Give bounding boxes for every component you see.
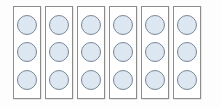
circle-1-1[interactable] bbox=[17, 15, 37, 35]
circle-2-1[interactable] bbox=[49, 15, 69, 35]
column-box-3[interactable]: Column 3 bbox=[77, 6, 105, 99]
circle-3-2[interactable] bbox=[81, 42, 101, 62]
circle-6-3[interactable] bbox=[177, 70, 197, 90]
circle-4-2[interactable] bbox=[113, 42, 133, 62]
diagram-canvas: Column 1 Column 2 Column 3 Column 4 Colu… bbox=[0, 0, 221, 107]
column-box-1[interactable]: Column 1 bbox=[13, 6, 41, 99]
circle-4-3[interactable] bbox=[113, 70, 133, 90]
circle-1-2[interactable] bbox=[17, 42, 37, 62]
circle-6-2[interactable] bbox=[177, 42, 197, 62]
circle-5-2[interactable] bbox=[145, 42, 165, 62]
column-row: Column 1 Column 2 Column 3 Column 4 Colu… bbox=[13, 6, 201, 99]
column-box-4[interactable]: Column 4 bbox=[109, 6, 137, 99]
circle-4-1[interactable] bbox=[113, 15, 133, 35]
column-box-2[interactable]: Column 2 bbox=[45, 6, 73, 99]
circle-5-3[interactable] bbox=[145, 70, 165, 90]
circle-2-2[interactable] bbox=[49, 42, 69, 62]
circle-6-1[interactable] bbox=[177, 15, 197, 35]
column-box-5[interactable]: Column 5 bbox=[141, 6, 169, 99]
circle-2-3[interactable] bbox=[49, 70, 69, 90]
circle-1-3[interactable] bbox=[17, 70, 37, 90]
circle-5-1[interactable] bbox=[145, 15, 165, 35]
circle-3-1[interactable] bbox=[81, 15, 101, 35]
circle-3-3[interactable] bbox=[81, 70, 101, 90]
column-box-6[interactable]: Column 6 bbox=[173, 6, 201, 99]
